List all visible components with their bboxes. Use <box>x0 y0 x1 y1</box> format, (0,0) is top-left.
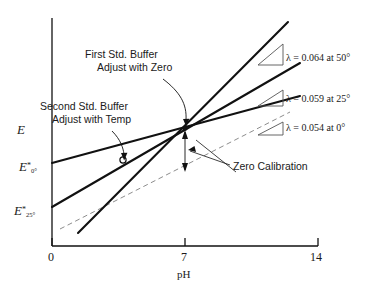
slope-label-0deg: λ = 0.054 at 0° <box>286 122 345 133</box>
annotation-second-buffer: Second Std. Buffer Adjust with Temp <box>40 100 131 126</box>
annotation-first-buffer-line2: Adjust with Zero <box>85 61 172 74</box>
x-tick-label-0: 0 <box>48 250 54 265</box>
annotation-second-buffer-line1: Second Std. Buffer <box>40 100 131 113</box>
isopotential-point <box>182 125 187 130</box>
annotation-first-buffer-line1: First Std. Buffer <box>85 48 172 61</box>
y-marker-25deg-degree: ° <box>32 211 35 219</box>
y-axis-label: E <box>17 122 25 138</box>
zero-calibration-arrowhead-down <box>182 163 188 172</box>
second-buffer-leader <box>112 131 124 154</box>
x-tick-label-14: 14 <box>310 250 322 265</box>
slope-triangle-0deg <box>258 122 283 135</box>
slope-label-50deg: λ = 0.064 at 50° <box>286 52 350 63</box>
slope-label-25deg: λ = 0.059 at 25° <box>286 93 350 104</box>
annotation-zero-calibration: Zero Calibration <box>233 160 308 173</box>
ph-electrode-response-figure: E E*0° E*25° 0 7 14 pH First Std. Buffer… <box>0 0 366 288</box>
zero-calibration-leader-lower <box>196 140 236 172</box>
first-buffer-leader <box>163 79 186 120</box>
plot-canvas <box>0 0 366 288</box>
slope-triangle-group <box>258 44 283 135</box>
y-marker-0deg-base: E <box>19 159 27 174</box>
y-marker-25deg-base: E <box>14 203 22 218</box>
x-tick-label-7: 7 <box>181 250 187 265</box>
zero-calibration-leader-arrowhead <box>188 146 196 152</box>
y-marker-e-star-25deg: E*25° <box>14 203 35 219</box>
x-axis-label: pH <box>177 268 190 280</box>
y-marker-0deg-degree: ° <box>34 167 37 175</box>
annotation-first-buffer: First Std. Buffer Adjust with Zero <box>85 48 172 74</box>
annotation-second-buffer-line2: Adjust with Temp <box>40 113 131 126</box>
y-marker-e-star-0deg: E*0° <box>19 159 37 175</box>
